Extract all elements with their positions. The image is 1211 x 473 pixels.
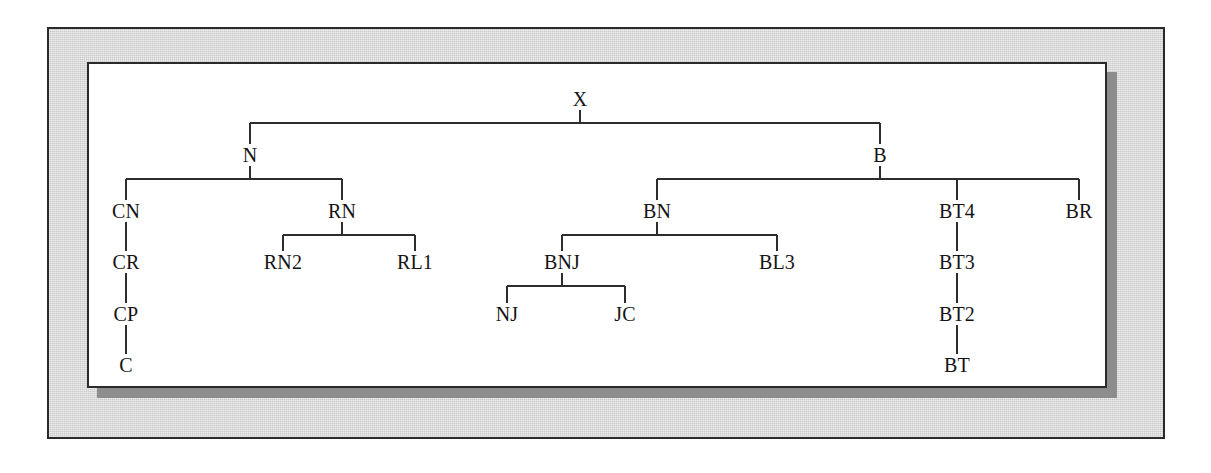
screenshot-stage: XNBCNRNBNBT4BRCRRN2RL1BNJBL3BT3CPNJJCBT2… (0, 0, 1211, 473)
tree-node-br: BR (1065, 201, 1092, 221)
diagram-canvas: XNBCNRNBNBT4BRCRRN2RL1BNJBL3BT3CPNJJCBT2… (87, 62, 1107, 388)
tree-node-rn2: RN2 (264, 252, 302, 272)
tree-node-cn: CN (112, 201, 140, 221)
tree-node-bt3: BT3 (939, 252, 975, 272)
tree-node-n: N (243, 145, 258, 165)
tree-node-rn: RN (328, 201, 356, 221)
tree-node-c: C (119, 355, 133, 375)
tree-node-rl1: RL1 (397, 252, 433, 272)
tree-edges-layer (89, 64, 1107, 388)
tree-node-nj: NJ (496, 304, 519, 324)
tree-node-cr: CR (112, 252, 139, 272)
tree-node-bnj: BNJ (544, 252, 580, 272)
tree-node-b: B (873, 145, 887, 165)
tree-node-bn: BN (643, 201, 671, 221)
tree-node-cp: CP (114, 304, 139, 324)
tree-node-bt2: BT2 (939, 304, 975, 324)
tree-node-jc: JC (614, 304, 636, 324)
tree-node-bl3: BL3 (759, 252, 795, 272)
tree-node-x: X (573, 89, 588, 109)
tree-node-bt4: BT4 (939, 201, 975, 221)
tree-node-bt: BT (944, 355, 970, 375)
